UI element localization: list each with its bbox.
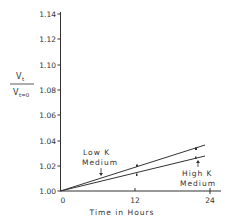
chart: 1.00 1.02 1.04 1.06 1.08 1.10 1.12 1.14 …: [0, 0, 232, 224]
y-tick-label: 1.08: [39, 86, 56, 95]
y-tick-label: 1.00: [39, 187, 56, 196]
x-axis-label: Time in Hours: [89, 208, 155, 217]
y-tick-label: 1.14: [39, 10, 56, 19]
y-tick-label: 1.10: [39, 61, 56, 70]
high-k-annotation: High K Medium: [180, 160, 216, 188]
low-k-annotation: Low K Medium: [82, 148, 118, 176]
low-k-label-1: Low K: [83, 148, 110, 157]
y-tick-label: 1.12: [39, 35, 56, 44]
high-k-label-1: High K: [182, 169, 213, 178]
x-tick-labels: 0 12 24: [61, 196, 215, 205]
x-tick-label: 12: [130, 196, 140, 205]
y-tick-label: 1.04: [39, 137, 56, 146]
y-label-denominator-sub: t=0: [19, 92, 30, 98]
y-axis-label: V t V t=0: [10, 72, 34, 98]
x-tick-label: 0: [61, 196, 66, 205]
arrow-up-icon: [196, 160, 200, 163]
y-tick-labels: 1.00 1.02 1.04 1.06 1.08 1.10 1.12 1.14: [39, 10, 56, 196]
y-tick-label: 1.06: [39, 111, 56, 120]
arrow-down-icon: [99, 173, 103, 176]
y-tick-label: 1.02: [39, 162, 56, 171]
low-k-label-2: Medium: [82, 158, 118, 167]
y-label-numerator-sub: t: [22, 76, 25, 82]
x-tick-label: 24: [205, 196, 215, 205]
high-k-label-2: Medium: [180, 179, 216, 188]
